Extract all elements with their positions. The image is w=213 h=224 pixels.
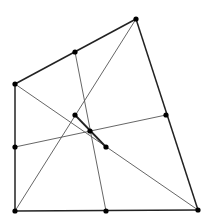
point-m-ab	[72, 49, 77, 54]
point-p-bd	[72, 112, 77, 117]
point-m-da	[12, 144, 17, 149]
point-m-bc	[163, 112, 168, 117]
point-c	[195, 207, 200, 212]
point-a	[12, 81, 17, 86]
quadrilateral-edges	[15, 19, 198, 211]
points	[12, 16, 200, 213]
point-m-cd	[103, 208, 108, 213]
point-d	[12, 208, 17, 213]
point-p-ac	[103, 144, 108, 149]
point-b	[133, 16, 138, 21]
point-g	[87, 128, 92, 133]
construction-lines	[15, 19, 198, 211]
geometry-diagram	[0, 0, 213, 224]
